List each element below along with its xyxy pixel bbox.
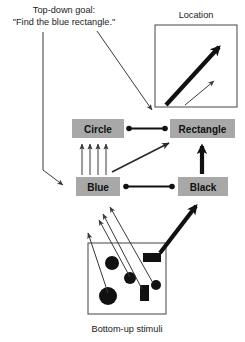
stimulus-circle-3 <box>99 287 117 305</box>
stimulus-rect-1 <box>143 253 161 262</box>
node-black-label: Black <box>190 182 217 193</box>
node-blue-label: Blue <box>87 182 109 193</box>
attention-model-diagram: Top-down goal: "Find the blue rectangle.… <box>0 0 245 342</box>
link-blue-to-circle-bundle <box>82 144 106 175</box>
link-blue-black <box>123 184 175 190</box>
goal-to-rectangle-connector <box>97 31 152 110</box>
node-black[interactable]: Black <box>178 177 228 196</box>
node-rectangle-label: Rectangle <box>179 124 227 135</box>
node-rectangle[interactable]: Rectangle <box>170 119 235 138</box>
node-circle-label: Circle <box>84 124 112 135</box>
stimulus-circle-1 <box>105 256 119 270</box>
blue-to-rectangle-arrow <box>112 143 169 172</box>
location-box <box>155 25 237 107</box>
stimuli-to-black-arrow <box>160 206 196 253</box>
goal-title-line1: Top-down goal: <box>33 5 95 15</box>
location-label: Location <box>179 10 214 20</box>
goal-title-line2: "Find the blue rectangle." <box>13 17 116 27</box>
node-blue[interactable]: Blue <box>76 177 120 196</box>
link-circle-rectangle <box>126 126 168 132</box>
stimuli-caption: Bottom-up stimuli <box>92 324 163 334</box>
node-circle[interactable]: Circle <box>72 119 124 138</box>
goal-to-blue-connector <box>43 32 63 185</box>
